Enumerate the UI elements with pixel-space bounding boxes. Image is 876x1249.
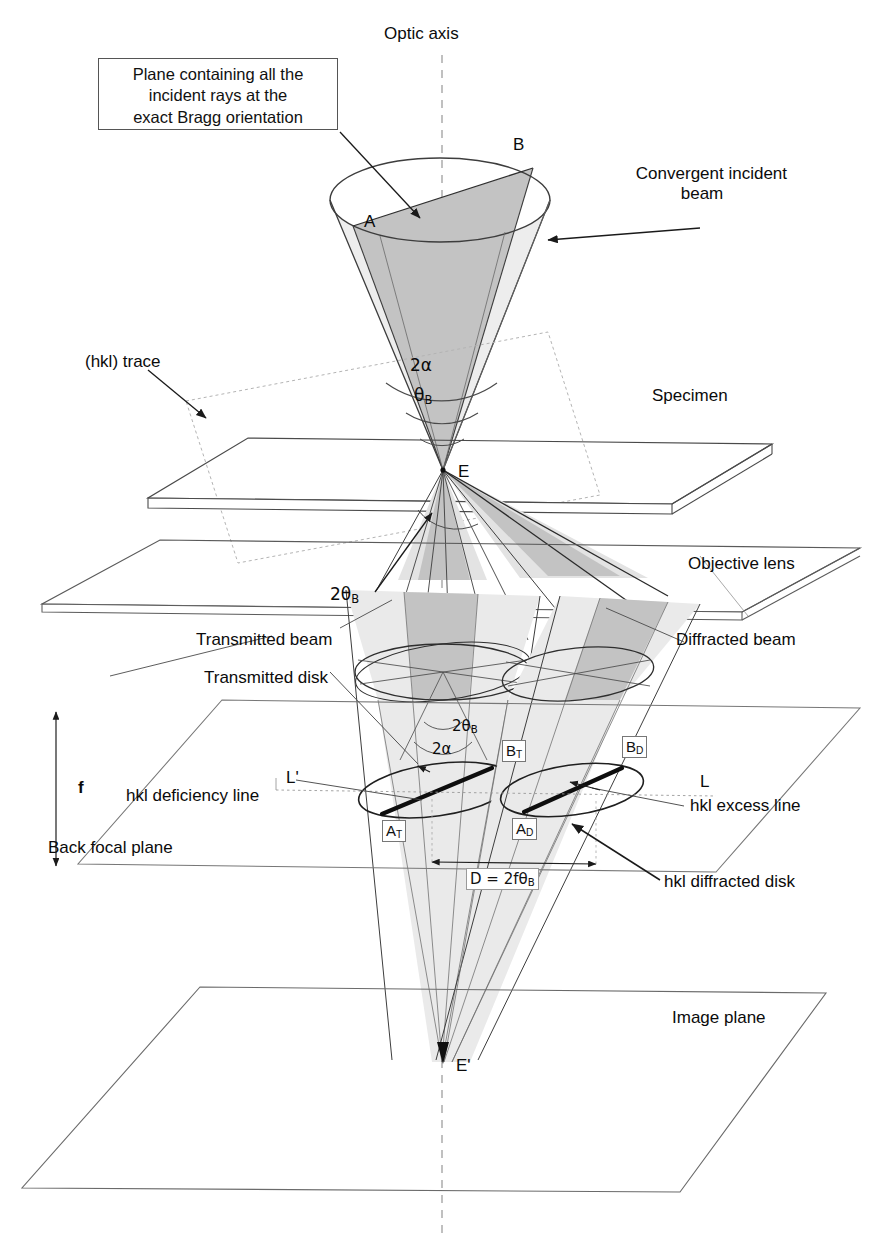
two-alpha-upper-label: 2α [410, 355, 432, 376]
convergent-incident-beam-label: Convergent incidentbeam [612, 143, 792, 226]
point-BT-tag: BT [502, 740, 526, 762]
point-E-label: E [458, 462, 469, 483]
point-AD-tag: AD [512, 818, 537, 840]
theta-b-upper-label: θB [414, 385, 432, 407]
specimen-label: Specimen [652, 386, 728, 407]
image-plane-label: Image plane [672, 1008, 766, 1029]
transmitted-disk-label: Transmitted disk [204, 668, 328, 689]
bragg-plane-callout: Plane containing all the incident rays a… [98, 58, 338, 130]
bragg-plane-callout-line2: incident rays at the [105, 85, 331, 106]
figure-canvas: Optic axis Plane containing all the inci… [0, 0, 876, 1249]
back-focal-plane-label: Back focal plane [48, 838, 173, 859]
point-B-label: B [513, 135, 524, 156]
L-prime-label: L' [286, 768, 299, 789]
hkl-deficiency-line-label: hkl deficiency line [126, 786, 259, 807]
point-AT-tag: AT [382, 820, 406, 842]
point-E-prime-label: E' [456, 1056, 471, 1077]
disk-separation-label: D = 2fθB [466, 868, 539, 890]
bragg-plane-callout-line3: exact Bragg orientation [105, 107, 331, 128]
hkl-trace-label: (hkl) trace [85, 352, 161, 373]
two-theta-b-specimen-label: 2θB [330, 584, 359, 606]
two-alpha-lower-label: 2α [432, 740, 451, 758]
point-A-label: A [364, 212, 375, 233]
focal-length-label: f [78, 778, 84, 799]
hkl-excess-line-label: hkl excess line [690, 796, 801, 817]
diffracted-beam-label: Diffracted beam [676, 630, 796, 651]
hkl-diffracted-disk-label: hkl diffracted disk [664, 872, 795, 893]
transmitted-beam-label: Transmitted beam [196, 630, 332, 651]
bragg-plane-callout-line1: Plane containing all the [105, 64, 331, 85]
L-label: L [700, 772, 709, 793]
optic-axis-label: Optic axis [384, 24, 459, 45]
two-theta-b-lower-label: 2θB [452, 717, 478, 737]
point-BD-tag: BD [622, 736, 647, 758]
objective-lens-label: Objective lens [688, 554, 795, 575]
